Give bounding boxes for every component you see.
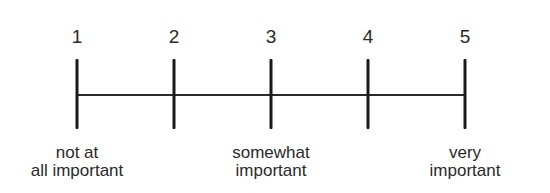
scale-number-5: 5 (460, 26, 471, 48)
scale-tick-1 (76, 59, 79, 129)
scale-number-4: 4 (363, 26, 374, 48)
anchor-label-low-line1: not at (31, 144, 124, 162)
scale-number-1: 1 (72, 26, 83, 48)
scale-tick-2 (173, 59, 176, 129)
anchor-label-mid-line2: important (232, 162, 309, 180)
anchor-label-low-line2: all important (31, 162, 124, 180)
anchor-label-mid: somewhat important (232, 144, 309, 180)
anchor-label-high-line2: important (430, 162, 501, 180)
anchor-label-low: not at all important (31, 144, 124, 180)
scale-number-3: 3 (266, 26, 277, 48)
anchor-label-high: very important (430, 144, 501, 180)
scale-tick-5 (464, 59, 467, 129)
scale-number-2: 2 (169, 26, 180, 48)
scale-tick-4 (367, 59, 370, 129)
anchor-label-mid-line1: somewhat (232, 144, 309, 162)
scale-tick-3 (270, 59, 273, 129)
anchor-label-high-line1: very (430, 144, 501, 162)
